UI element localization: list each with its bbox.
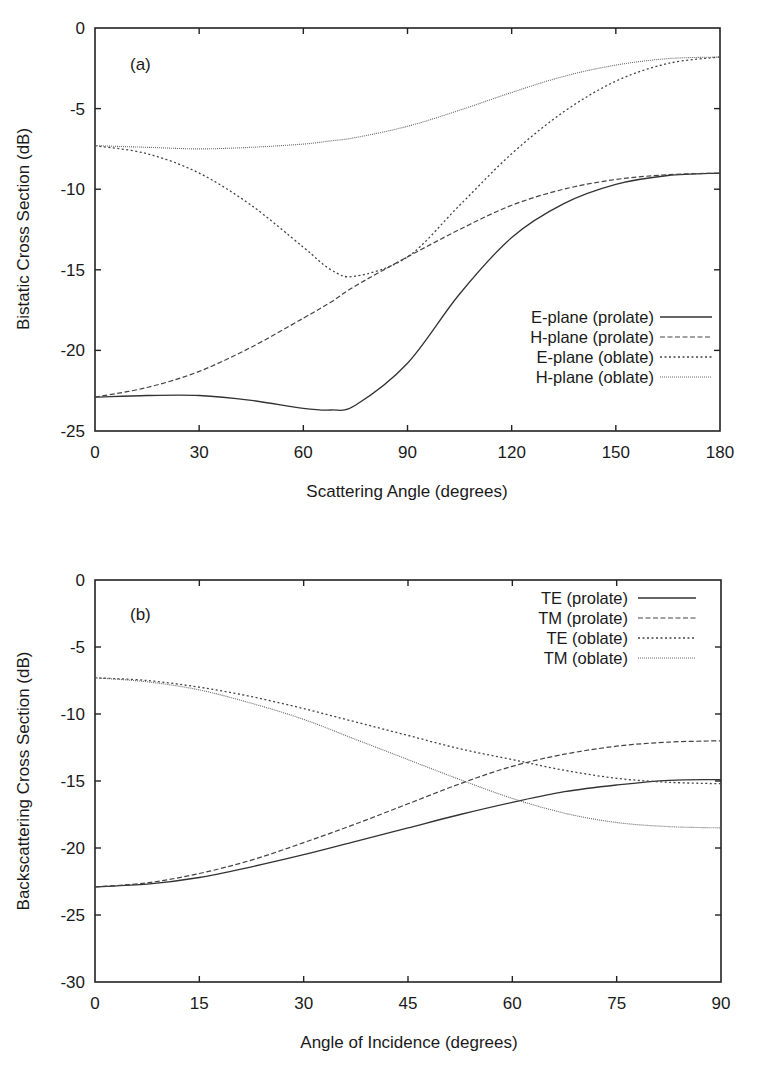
y-tick-label: -25 [60, 906, 85, 925]
legend-a: E-plane (prolate)H-plane (prolate)E-plan… [530, 308, 712, 386]
panel-label-b: (b) [130, 605, 151, 624]
series-b [95, 678, 721, 887]
series-line-h-plane-oblate [95, 57, 720, 149]
legend-label: TM (prolate) [538, 609, 628, 627]
y-tick-label: -15 [60, 261, 85, 280]
y-tick-label: -10 [60, 705, 85, 724]
y-tick-label: -25 [60, 422, 85, 441]
y-tick-label: -10 [60, 180, 85, 199]
legend-label: TE (prolate) [541, 589, 628, 607]
x-tick-label: 75 [607, 994, 626, 1013]
x-tick-label: 90 [398, 443, 417, 462]
x-tick-label: 60 [294, 443, 313, 462]
series-line-e-plane-oblate [95, 57, 720, 277]
legend-label: TM (oblate) [544, 649, 628, 667]
x-tick-label: 0 [90, 443, 99, 462]
x-tick-label: 60 [503, 994, 522, 1013]
y-tick-label: -5 [70, 100, 85, 119]
legend-label: E-plane (prolate) [531, 308, 654, 326]
x-tick-label: 90 [712, 994, 731, 1013]
x-tick-label: 45 [399, 994, 418, 1013]
x-axis-title-b: Angle of Incidence (degrees) [300, 1033, 517, 1052]
y-tick-label: -15 [60, 772, 85, 791]
x-tick-label: 150 [602, 443, 630, 462]
series-line-tm-oblate [95, 678, 721, 828]
legend-label: E-plane (oblate) [537, 348, 654, 366]
series-line-te-prolate [95, 780, 721, 887]
y-tick-label: 0 [76, 19, 85, 38]
y-axis-title-b: Backscattering Cross Section (dB) [14, 652, 33, 911]
legend-label: H-plane (prolate) [530, 328, 654, 346]
x-tick-label: 120 [497, 443, 525, 462]
y-tick-label: -5 [70, 638, 85, 657]
x-tick-label: 30 [190, 443, 209, 462]
y-tick-label: -30 [60, 973, 85, 992]
x-tick-label: 30 [294, 994, 313, 1013]
y-tick-label: 0 [76, 571, 85, 590]
x-tick-label: 0 [90, 994, 99, 1013]
chart-panel-a: 03060901201501800-5-10-15-20-25 (a) Scat… [14, 19, 734, 501]
legend-label: TE (oblate) [546, 629, 628, 647]
y-axis-title-a: Bistatic Cross Section (dB) [14, 128, 33, 330]
series-line-te-oblate [95, 678, 721, 784]
y-tick-label: -20 [60, 839, 85, 858]
series-line-tm-prolate [95, 741, 721, 887]
figure-canvas: 03060901201501800-5-10-15-20-25 (a) Scat… [0, 0, 767, 1074]
legend-b: TE (prolate)TM (prolate)TE (oblate)TM (o… [538, 589, 696, 667]
x-axis-title-a: Scattering Angle (degrees) [306, 482, 507, 501]
panel-label-a: (a) [130, 55, 151, 74]
x-tick-label: 180 [706, 443, 734, 462]
y-tick-label: -20 [60, 341, 85, 360]
ticks-b: 01530456075900-5-10-15-20-25-30 [60, 571, 730, 1013]
chart-panel-b: 01530456075900-5-10-15-20-25-30 (b) Angl… [14, 571, 730, 1052]
legend-label: H-plane (oblate) [536, 368, 654, 386]
x-tick-label: 15 [190, 994, 209, 1013]
